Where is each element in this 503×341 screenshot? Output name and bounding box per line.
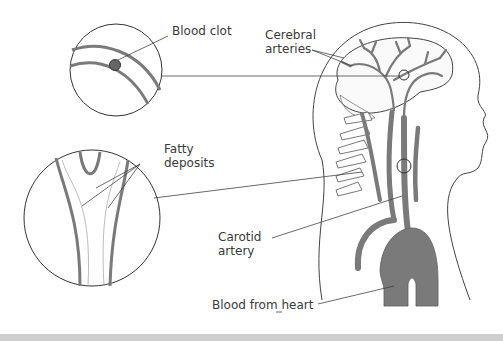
label-blood-clot: Blood clot — [172, 24, 232, 38]
label-fatty-deposits: Fatty deposits — [164, 142, 215, 170]
brain-outline — [336, 38, 453, 113]
anatomy-illustration — [0, 0, 503, 341]
blood-clot-icon — [110, 60, 121, 71]
aortic-arch — [380, 228, 438, 306]
label-cerebral-arteries: Cerebral arteries — [265, 28, 316, 56]
label-blood-from-heart: Blood from heart — [212, 298, 313, 312]
label-carotid-artery: Carotid artery — [218, 230, 261, 258]
blood-clot-inset — [70, 24, 162, 116]
fatty-deposits-inset — [24, 150, 160, 286]
bottom-border-bar — [0, 334, 503, 341]
